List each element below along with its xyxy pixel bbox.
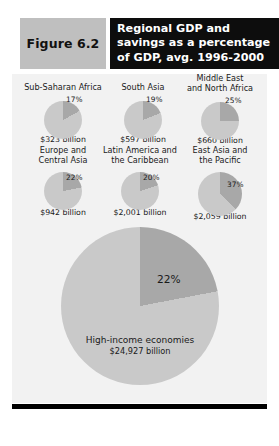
pie-chart-graphic xyxy=(198,172,242,216)
pie-label: Latin America and the Caribbean xyxy=(97,146,183,166)
pie-graphic-wrap: 37% xyxy=(177,167,263,207)
pie-graphic-wrap: 25% xyxy=(177,95,263,135)
pie-cell-high-income-economies: 22% High-income economies $24,927 billio… xyxy=(61,227,219,385)
figure-title-line-3: of GDP, avg. 1996-2000 xyxy=(117,51,279,65)
pie-name-label-large: High-income economies xyxy=(61,335,219,345)
pie-label: South Asia xyxy=(100,83,186,93)
pie-label-line: the Caribbean xyxy=(111,155,168,165)
pie-cell-europe-central-asia: Europe and Central Asia 22% $942 billion xyxy=(20,146,106,217)
figure-title-line-1: Regional GDP and xyxy=(117,22,279,36)
pie-percent-label-large: 22% xyxy=(157,273,181,285)
pie-label: East Asia and the Pacific xyxy=(177,146,263,166)
pie-caption-large: High-income economies $24,927 billion xyxy=(61,335,219,356)
pie-label: Sub-Saharan Africa xyxy=(20,83,106,93)
figure-title-line-2: savings as a percentage xyxy=(117,36,279,50)
pie-cell-middle-east-north-africa: Middle East and North Africa 25% $660 bi… xyxy=(177,74,263,145)
figure-container: Figure 6.2 Regional GDP and savings as a… xyxy=(0,0,279,446)
pie-graphic-wrap: 20% xyxy=(97,167,183,207)
pie-value-label-large: $24,927 billion xyxy=(61,346,219,356)
figure-header: Figure 6.2 Regional GDP and savings as a… xyxy=(20,18,279,69)
pie-chart-graphic xyxy=(44,101,82,139)
pie-percent-label: 17% xyxy=(66,95,82,104)
pie-label-line: Sub-Saharan Africa xyxy=(24,82,102,92)
pie-graphic-wrap: 19% xyxy=(100,94,186,134)
pie-label: Middle East and North Africa xyxy=(177,74,263,94)
figure-title-box: Regional GDP and savings as a percentage… xyxy=(110,18,279,69)
pie-cell-sub-saharan-africa: Sub-Saharan Africa 17% $323 billion xyxy=(20,83,106,144)
pie-label-line: the Pacific xyxy=(199,155,241,165)
pie-label-line: Europe and xyxy=(40,145,86,155)
pie-label-line: South Asia xyxy=(121,82,164,92)
pie-chart-graphic-large xyxy=(61,227,219,385)
pie-percent-label: 37% xyxy=(227,180,243,189)
pie-chart-graphic xyxy=(201,102,239,140)
pie-percent-label: 25% xyxy=(225,96,241,105)
bottom-rule xyxy=(12,404,267,409)
pie-label-line: East Asia and xyxy=(193,145,248,155)
pie-label-line: and North Africa xyxy=(187,83,253,93)
pie-percent-label: 20% xyxy=(143,173,159,182)
figure-number-box: Figure 6.2 xyxy=(20,18,106,69)
pie-graphic-wrap: 22% xyxy=(20,167,106,207)
pie-label: Europe and Central Asia xyxy=(20,146,106,166)
pie-cell-latin-america-caribbean: Latin America and the Caribbean 20% $2,0… xyxy=(97,146,183,217)
pie-percent-label: 19% xyxy=(146,95,162,104)
pie-label-line: Middle East xyxy=(197,74,244,83)
pie-label-line: Central Asia xyxy=(38,155,87,165)
pie-cell-east-asia-pacific: East Asia and the Pacific 37% $2,059 bil… xyxy=(177,146,263,221)
pie-label-line: Latin America and xyxy=(103,145,177,155)
pie-percent-label: 22% xyxy=(66,173,82,182)
pie-chart-graphic xyxy=(124,101,162,139)
pie-cell-south-asia: South Asia 19% $597 billion xyxy=(100,83,186,144)
pie-graphic-wrap: 17% xyxy=(20,94,106,134)
figure-number-label: Figure 6.2 xyxy=(27,36,100,51)
